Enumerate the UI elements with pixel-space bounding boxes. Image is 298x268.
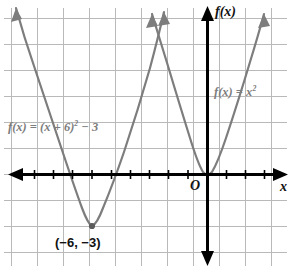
vertex-marker-translated <box>89 223 95 229</box>
arrowhead-parent-left-branch <box>146 14 158 28</box>
y-axis-label: f(x) <box>215 5 236 19</box>
parent-curve-label-exponent: 2 <box>252 84 256 93</box>
translated-curve-label-prefix: f(x) = (x + 6) <box>8 120 74 134</box>
translated-curve-label-suffix: − 3 <box>78 120 98 134</box>
vertex-point-label: (−6, −3) <box>55 236 101 249</box>
arrowhead-parent-right-branch <box>258 14 270 28</box>
x-axis-label: x <box>280 180 287 194</box>
translated-curve-label: f(x) = (x + 6)2 − 3 <box>8 120 98 134</box>
graph-figure: f(x) = (x + 6)2 − 3 f(x) = x2 (−6, −3) O… <box>0 0 298 268</box>
grid-lines <box>4 8 287 266</box>
y-axis-arrow-up <box>201 6 214 21</box>
parent-curve-label: f(x) = x2 <box>214 85 256 99</box>
y-axis-arrow-down <box>201 251 214 266</box>
origin-label: O <box>190 179 200 193</box>
curve-translated-parabola <box>11 8 170 229</box>
x-axis-arrow-left <box>8 168 23 181</box>
parent-curve-label-prefix: f(x) = x <box>214 85 252 99</box>
